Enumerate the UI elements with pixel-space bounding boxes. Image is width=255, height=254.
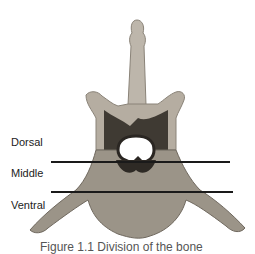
label-middle: Middle [11,167,43,179]
divider-line-dorsal-middle [51,161,230,163]
figure-caption: Figure 1.1 Division of the bone [40,240,203,254]
divider-line-middle-ventral [51,191,233,193]
label-dorsal: Dorsal [11,136,43,148]
label-ventral: Ventral [11,199,45,211]
